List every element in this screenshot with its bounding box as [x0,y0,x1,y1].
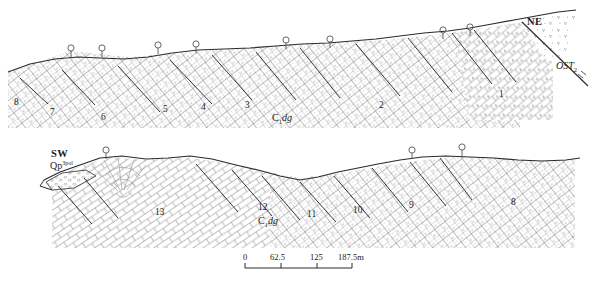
upper-block-number-8: 8 [14,98,19,108]
lower-block-number-9: 9 [409,201,414,211]
scale-tick-125: 125 [310,253,323,262]
borehole-icon [193,41,199,53]
upper-block-number-1: 1 [499,90,504,100]
upper-section-group [0,10,588,135]
scale-tick-62-5: 62.5 [270,253,285,262]
stratigraphic-label-ost2: OST2 [556,61,577,74]
direction-label-sw: SW [51,149,68,160]
lower-block-number-10: 10 [353,206,363,216]
quaternary-label-qp: Qp3pol [50,160,73,171]
formation-label-upper: C1dg [272,113,292,126]
formation-label-lower: C1dg [258,216,278,229]
scale-tick-0: 0 [243,253,247,262]
lower-block-number-8: 8 [511,198,516,208]
upper-block-number-4: 4 [201,103,206,113]
lower-block-number-12: 12 [258,203,268,213]
figure-canvas: c c d d v v [0,0,597,283]
borehole-icon [155,42,161,54]
upper-block-number-5: 5 [163,105,168,115]
upper-block-number-6: 6 [101,113,106,123]
upper-block-number-3: 3 [245,101,250,111]
borehole-icon [459,144,465,156]
scale-bar [245,263,352,268]
direction-label-ne: NE [527,17,542,28]
upper-block-number-7: 7 [50,108,55,118]
cross-section-svg: c c d d v v [0,0,597,283]
lower-section-group [40,150,590,255]
lower-hatch-fill [40,150,590,255]
borehole-icon [409,147,415,159]
lower-block-number-13: 13 [155,208,165,218]
lower-block-number-11: 11 [307,210,316,220]
scale-tick-187-5m: 187.5m [338,253,364,262]
upper-block-number-2: 2 [379,101,384,111]
